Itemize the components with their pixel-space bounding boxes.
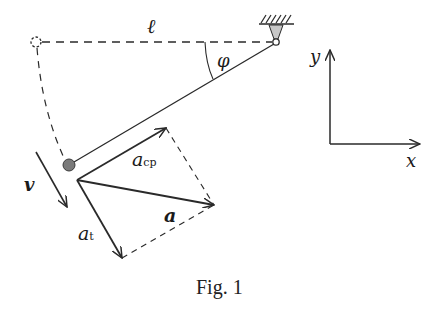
initial-position-marker (31, 37, 41, 47)
ceiling-support (259, 15, 294, 45)
parallelogram-edge-1 (166, 128, 214, 205)
pendulum-diagram (0, 0, 446, 311)
velocity-label: v (24, 176, 34, 194)
total-acceleration-arrow (77, 180, 214, 205)
tangential-subscript: t (89, 230, 93, 243)
angle-label: φ (217, 52, 230, 70)
pendulum-rod (74, 44, 274, 162)
angle-arc (205, 42, 213, 79)
figure-caption: Fig. 1 (196, 276, 243, 299)
velocity-arrow (36, 152, 67, 207)
tangential-acc-label: at (78, 224, 94, 243)
y-axis-label: y (310, 48, 320, 66)
pendulum-bob (63, 159, 75, 171)
trajectory-arc (37, 48, 64, 158)
centripetal-subscript: cp (143, 156, 156, 169)
length-label: ℓ (147, 16, 155, 36)
total-acc-label: a (164, 206, 176, 225)
tangential-acceleration-arrow (77, 180, 122, 258)
x-axis-label: x (406, 152, 416, 170)
centripetal-acc-label: acp (132, 150, 157, 169)
